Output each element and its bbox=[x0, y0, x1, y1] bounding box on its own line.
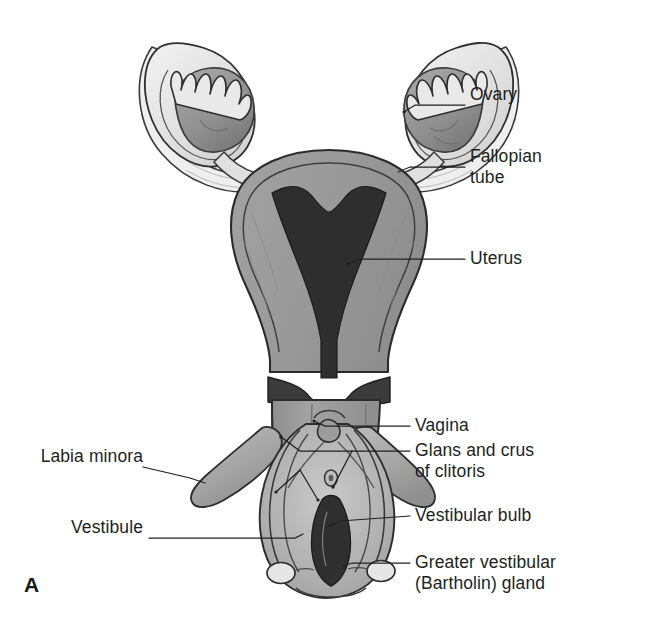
dot-uterus bbox=[346, 262, 349, 265]
label-ovary: Ovary bbox=[470, 84, 517, 105]
dot-crus bbox=[331, 485, 335, 489]
panel-letter: A bbox=[24, 573, 39, 597]
label-uterus: Uterus bbox=[470, 248, 522, 269]
label-vestibule: Vestibule bbox=[62, 517, 143, 538]
dot-vestibule-a bbox=[274, 490, 277, 493]
dot-vestibule-b bbox=[316, 498, 319, 501]
label-glans-and-crus-of-clitoris: Glans and crus of clitoris bbox=[415, 440, 534, 482]
dot-vagina bbox=[312, 419, 315, 422]
label-vagina: Vagina bbox=[415, 415, 469, 436]
dot-glans bbox=[279, 435, 283, 439]
vaginal-introitus bbox=[311, 496, 350, 587]
label-vestibular-bulb: Vestibular bulb bbox=[415, 505, 531, 526]
dot-ovary bbox=[402, 110, 405, 113]
left-adnexa bbox=[139, 43, 266, 192]
leader-labia-minora bbox=[143, 467, 205, 483]
clitoral-glans bbox=[318, 420, 341, 442]
label-labia-minora: Labia minora bbox=[30, 446, 143, 467]
label-greater-vestibular-bartholin-gland: Greater vestibular (Bartholin) gland bbox=[415, 552, 556, 594]
urethral-orifice-inner bbox=[329, 475, 334, 481]
uterus bbox=[231, 150, 427, 420]
vulva-complex bbox=[191, 411, 435, 599]
right-bartholin-gland bbox=[367, 561, 395, 582]
left-bartholin-gland bbox=[267, 563, 295, 584]
label-fallopian-tube: Fallopian tube bbox=[470, 146, 542, 188]
dot-vestibular-bulb bbox=[329, 523, 332, 526]
